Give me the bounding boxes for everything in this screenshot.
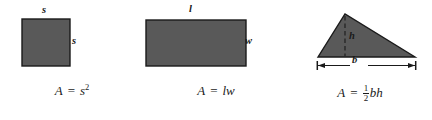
triangle-shape — [318, 14, 415, 57]
triangle-base-arrow-right — [408, 63, 415, 68]
square-shape — [22, 19, 70, 66]
square-formula-exponent: 2 — [85, 82, 89, 92]
square-right-side-label: s — [72, 36, 76, 47]
triangle-formula-fraction-numerator: 1 — [363, 84, 370, 93]
figure-rectangle: l w A=lw — [144, 0, 288, 120]
rectangle-shape — [146, 20, 246, 66]
triangle-height-label: h — [349, 31, 355, 42]
rectangle-width-label: w — [245, 36, 252, 47]
area-formulas-diagram: s s A=s2 l w A=lw — [0, 0, 432, 120]
square-area-formula: A=s2 — [0, 84, 144, 98]
rectangle-shape-area — [144, 0, 288, 80]
rectangle-formula-lhs: A — [197, 83, 205, 98]
rectangle-area-formula: A=lw — [144, 84, 288, 98]
square-formula-lhs: A — [55, 83, 63, 98]
triangle-formula-fraction-denominator: 2 — [363, 93, 370, 103]
figure-triangle: h b A=12bh — [288, 0, 432, 120]
rectangle-formula-rhs: lw — [223, 83, 235, 98]
triangle-formula-fraction: 12 — [363, 84, 370, 104]
triangle-base-label: b — [352, 55, 357, 66]
square-top-side-label: s — [42, 5, 46, 16]
figure-square: s s A=s2 — [0, 0, 144, 120]
rectangle-length-label: l — [189, 4, 192, 15]
rectangle-formula-equals: = — [210, 83, 217, 98]
square-formula-equals: = — [68, 83, 75, 98]
triangle-formula-rhs: bh — [370, 85, 383, 100]
triangle-area-formula: A=12bh — [288, 84, 432, 104]
triangle-formula-equals: = — [350, 85, 357, 100]
triangle-base-arrow-left — [318, 63, 325, 68]
triangle-shape-area — [288, 0, 432, 80]
triangle-formula-lhs: A — [337, 85, 345, 100]
